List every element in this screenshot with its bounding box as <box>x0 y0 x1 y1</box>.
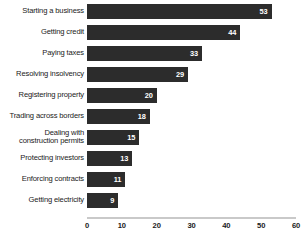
bar-row: Dealing with construction permits15 <box>0 127 305 148</box>
bar-value-label: 44 <box>228 28 240 37</box>
bar-value-label: 29 <box>176 70 188 79</box>
bar-track: 33 <box>87 46 202 61</box>
category-label: Getting credit <box>0 28 84 37</box>
x-tick-label: 30 <box>187 221 195 230</box>
category-label: Protecting investors <box>0 154 84 163</box>
bar: 53 <box>87 4 272 19</box>
category-label: Registering property <box>0 91 84 100</box>
bar-row: Getting credit44 <box>0 22 305 43</box>
bar: 44 <box>87 25 240 40</box>
bar-track: 44 <box>87 25 240 40</box>
bar-row: Getting electricity9 <box>0 190 305 211</box>
bar-value-label: 15 <box>127 133 139 142</box>
bar-value-label: 11 <box>114 175 126 184</box>
bar-track: 9 <box>87 193 118 208</box>
bar-track: 15 <box>87 130 139 145</box>
bar: 13 <box>87 151 132 166</box>
bar-track: 29 <box>87 67 188 82</box>
bar: 33 <box>87 46 202 61</box>
bar-value-label: 13 <box>120 154 132 163</box>
bar: 15 <box>87 130 139 145</box>
bar-track: 20 <box>87 88 157 103</box>
x-tick-label: 50 <box>257 221 265 230</box>
bar: 18 <box>87 109 150 124</box>
bar-row: Enforcing contracts11 <box>0 169 305 190</box>
bar: 29 <box>87 67 188 82</box>
x-tick-label: 10 <box>118 221 126 230</box>
x-tick-label: 60 <box>292 221 300 230</box>
bar-row: Registering property20 <box>0 85 305 106</box>
x-tick-label: 20 <box>153 221 161 230</box>
bar-track: 53 <box>87 4 272 19</box>
bar-track: 18 <box>87 109 150 124</box>
x-axis-tick-labels: 0102030405060 <box>0 221 305 241</box>
bar: 9 <box>87 193 118 208</box>
bar-row: Starting a business53 <box>0 1 305 22</box>
category-label: Starting a business <box>0 7 84 16</box>
bar-row: Paying taxes33 <box>0 43 305 64</box>
bar: 11 <box>87 172 125 187</box>
category-label: Paying taxes <box>0 49 84 58</box>
bar-value-label: 9 <box>110 196 118 205</box>
category-label: Trading across borders <box>0 112 84 121</box>
category-label: Resolving insolvency <box>0 70 84 79</box>
bar-chart: Starting a business53Getting credit44Pay… <box>0 0 305 241</box>
category-label: Enforcing contracts <box>0 175 84 184</box>
plot-area: Starting a business53Getting credit44Pay… <box>0 0 305 216</box>
bar-row: Trading across borders18 <box>0 106 305 127</box>
bar-track: 13 <box>87 151 132 166</box>
bar-value-label: 53 <box>260 7 272 16</box>
category-label: Dealing with construction permits <box>0 129 84 146</box>
bar-value-label: 33 <box>190 49 202 58</box>
bar-row: Protecting investors13 <box>0 148 305 169</box>
bar-value-label: 20 <box>145 91 157 100</box>
bar: 20 <box>87 88 157 103</box>
category-label: Getting electricity <box>0 196 84 205</box>
x-tick-label: 40 <box>222 221 230 230</box>
x-tick-label: 0 <box>85 221 89 230</box>
x-axis-line <box>87 217 296 219</box>
bar-track: 11 <box>87 172 125 187</box>
bar-row: Resolving insolvency29 <box>0 64 305 85</box>
bar-value-label: 18 <box>138 112 150 121</box>
